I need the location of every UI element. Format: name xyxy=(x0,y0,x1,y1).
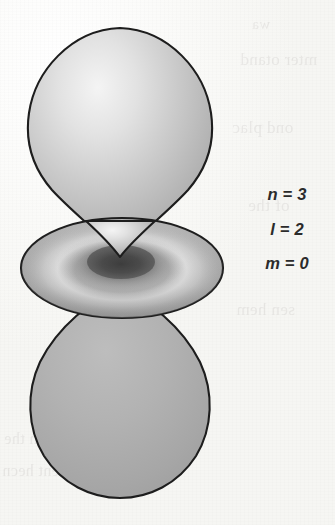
quantum-number-labels: n = 3 l = 2 m = 0 xyxy=(243,186,331,272)
label-magnetic-quantum-number: m = 0 xyxy=(243,255,331,272)
label-azimuthal-quantum-number: l = 2 xyxy=(243,221,331,238)
lower-lobe-shape xyxy=(30,288,209,498)
label-principal-quantum-number: n = 3 xyxy=(243,186,331,203)
orbital-figure-page: wa mter otand ond plac of the sen hem ta… xyxy=(0,0,335,525)
